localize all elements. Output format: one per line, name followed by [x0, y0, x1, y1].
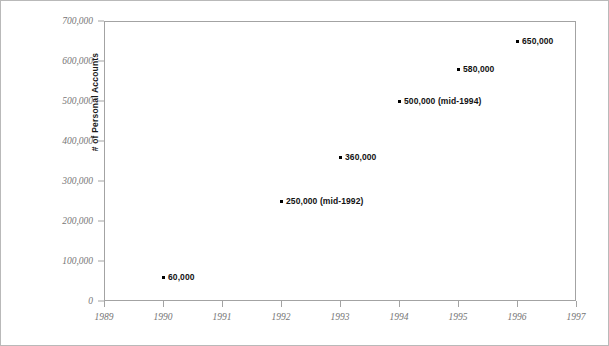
- y-tick-mark: [98, 181, 104, 182]
- x-tick-label: 1992: [272, 312, 291, 322]
- y-tick-label: 500,000: [62, 96, 93, 106]
- y-tick-mark: [98, 21, 104, 22]
- y-tick-label: 200,000: [62, 216, 93, 226]
- y-tick-label: 0: [88, 296, 93, 306]
- x-tick-label: 1997: [567, 312, 586, 322]
- data-point-label: 60,000: [168, 272, 195, 282]
- data-point-marker: [457, 68, 460, 71]
- y-tick-mark: [98, 261, 104, 262]
- x-tick-label: 1994: [390, 312, 409, 322]
- x-tick-mark: [517, 301, 518, 307]
- data-point-label: 580,000: [463, 64, 494, 74]
- y-tick-label: 600,000: [62, 56, 93, 66]
- y-tick-label: 700,000: [62, 16, 93, 26]
- data-point-marker: [162, 276, 165, 279]
- y-tick-mark: [98, 141, 104, 142]
- x-tick-label: 1991: [213, 312, 232, 322]
- y-tick-label: 300,000: [62, 176, 93, 186]
- y-tick-label: 100,000: [62, 256, 93, 266]
- x-tick-label: 1990: [154, 312, 173, 322]
- data-point-label: 500,000 (mid-1994): [404, 96, 481, 106]
- x-tick-mark: [222, 301, 223, 307]
- y-tick-label: 400,000: [62, 136, 93, 146]
- x-tick-mark: [399, 301, 400, 307]
- x-tick-mark: [163, 301, 164, 307]
- data-point-label: 250,000 (mid-1992): [286, 196, 363, 206]
- y-tick-mark: [98, 101, 104, 102]
- y-tick-mark: [98, 61, 104, 62]
- data-point-label: 360,000: [345, 152, 376, 162]
- data-point-marker: [398, 100, 401, 103]
- chart-figure: # of Personal Accounts 0100,000200,00030…: [0, 0, 609, 346]
- data-point-marker: [280, 200, 283, 203]
- x-tick-mark: [104, 301, 105, 307]
- x-tick-label: 1996: [508, 312, 527, 322]
- y-tick-mark: [98, 221, 104, 222]
- data-point-label: 650,000: [522, 36, 553, 46]
- plot-area: [104, 21, 576, 301]
- x-tick-mark: [340, 301, 341, 307]
- x-tick-mark: [458, 301, 459, 307]
- x-tick-mark: [281, 301, 282, 307]
- x-tick-label: 1989: [95, 312, 114, 322]
- data-point-marker: [339, 156, 342, 159]
- x-tick-label: 1995: [449, 312, 468, 322]
- x-tick-mark: [576, 301, 577, 307]
- x-tick-label: 1993: [331, 312, 350, 322]
- data-point-marker: [516, 40, 519, 43]
